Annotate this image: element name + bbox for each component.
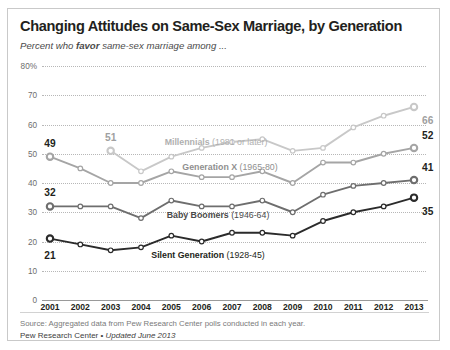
end-value-label-41: 41 (422, 162, 433, 173)
data-point (47, 203, 53, 209)
plot-area: 01020304050607080% 4932215166524135 Mill… (42, 66, 426, 300)
footer-update: Updated June 2013 (106, 331, 176, 340)
data-point (381, 113, 386, 118)
chart-subtitle: Percent who favor same-sex marriage amon… (20, 40, 227, 51)
start-value-label-51: 51 (105, 131, 116, 142)
data-point (78, 166, 83, 171)
data-point (351, 210, 356, 215)
data-point (290, 149, 295, 154)
data-point (199, 239, 204, 244)
x-tick-label-2009: 2009 (283, 302, 302, 312)
data-point (351, 125, 356, 130)
x-tick-label-2004: 2004 (131, 302, 150, 312)
y-tick-label-70: 70 (28, 91, 37, 100)
series-label-baby-boomers: Baby Boomers (1946-64) (167, 210, 270, 220)
data-point (199, 175, 204, 180)
data-point (139, 169, 144, 174)
source-note: Source: Aggregated data from Pew Researc… (20, 319, 305, 328)
end-value-label-35: 35 (422, 205, 433, 216)
data-point (139, 216, 144, 221)
x-tick-label-2003: 2003 (101, 302, 120, 312)
x-tick-label-2001: 2001 (40, 302, 59, 312)
y-tick-label-80: 80% (21, 62, 37, 71)
subtitle-emphasis: favor (76, 40, 99, 51)
data-point (321, 219, 326, 224)
series-label-millennials: Millennials (1981 or later) (165, 137, 268, 147)
x-tick-label-2010: 2010 (313, 302, 332, 312)
series-lines (42, 66, 426, 300)
y-tick-label-0: 0 (32, 296, 37, 305)
data-point (78, 242, 83, 247)
data-point (230, 230, 235, 235)
data-point (290, 181, 295, 186)
footer-separator: • (98, 331, 105, 340)
data-point (230, 204, 235, 209)
data-point (108, 248, 113, 253)
data-point (381, 204, 386, 209)
data-point (290, 210, 295, 215)
x-tick-label-2013: 2013 (404, 302, 423, 312)
x-tick-label-2002: 2002 (71, 302, 90, 312)
footer-credit: Pew Research Center • Updated June 2013 (20, 331, 175, 340)
data-point (107, 148, 113, 154)
data-point (78, 204, 83, 209)
y-tick-label-40: 40 (28, 179, 37, 188)
x-tick-label-2012: 2012 (374, 302, 393, 312)
series-label-years: (1965-80) (240, 162, 278, 172)
y-tick-label-30: 30 (28, 208, 37, 217)
footer-brand: Pew Research Center (20, 331, 98, 340)
data-point (381, 151, 386, 156)
x-tick-label-2011: 2011 (344, 302, 363, 312)
x-tick-label-2006: 2006 (192, 302, 211, 312)
data-point (351, 184, 356, 189)
data-point (290, 233, 295, 238)
x-tick-label-2005: 2005 (162, 302, 181, 312)
series-label-years: (1928-45) (227, 250, 265, 260)
subtitle-pre: Percent who (20, 40, 76, 51)
x-tick-label-2007: 2007 (222, 302, 241, 312)
data-point (260, 230, 265, 235)
start-value-label-21: 21 (44, 249, 55, 260)
x-axis-line (42, 300, 428, 301)
data-point (108, 204, 113, 209)
data-point (169, 233, 174, 238)
end-value-label-52: 52 (422, 129, 433, 140)
series-label-generation-x: Generation X (1965-80) (182, 162, 277, 172)
y-tick-label-60: 60 (28, 120, 37, 129)
data-point (169, 169, 174, 174)
data-point (411, 194, 417, 200)
start-value-label-49: 49 (44, 137, 55, 148)
data-point (411, 177, 417, 183)
data-point (411, 145, 417, 151)
footer-divider (20, 312, 429, 313)
series-label-years: (1981 or later) (212, 137, 267, 147)
chart-card: Changing Attitudes on Same-Sex Marriage,… (7, 8, 440, 341)
data-point (47, 235, 53, 241)
start-value-label-32: 32 (44, 187, 55, 198)
data-point (139, 181, 144, 186)
data-point (169, 154, 174, 159)
y-tick-label-50: 50 (28, 149, 37, 158)
data-point (230, 175, 235, 180)
data-point (321, 146, 326, 151)
data-point (260, 198, 265, 203)
data-point (199, 204, 204, 209)
data-point (381, 181, 386, 186)
data-point (169, 198, 174, 203)
data-point (321, 160, 326, 165)
y-tick-label-20: 20 (28, 237, 37, 246)
data-point (411, 104, 417, 110)
x-tick-label-2008: 2008 (253, 302, 272, 312)
y-tick-label-10: 10 (28, 266, 37, 275)
data-point (321, 192, 326, 197)
series-label-years: (1946-64) (231, 210, 269, 220)
data-point (351, 160, 356, 165)
page-title: Changing Attitudes on Same-Sex Marriage,… (20, 18, 402, 34)
end-value-label-66: 66 (422, 114, 433, 125)
series-label-silent-generation: Silent Generation (1928-45) (151, 250, 264, 260)
data-point (108, 181, 113, 186)
data-point (139, 245, 144, 250)
data-point (47, 153, 53, 159)
subtitle-post: same-sex marriage among ... (99, 40, 226, 51)
